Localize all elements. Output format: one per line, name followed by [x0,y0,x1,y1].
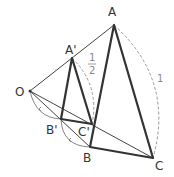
label-A1: A' [65,43,77,57]
label-A: A [108,5,117,19]
point-O [29,90,32,93]
ratio-one: 1 [157,73,163,84]
label-C1: C' [78,125,90,139]
homothety-diagram: O A A' B' C' B C 1 2 1 [0,0,174,177]
label-O: O [15,85,24,99]
triangle-ABC [90,25,153,158]
diagram-canvas: O A A' B' C' B C 1 2 1 [0,0,174,177]
tick-mark-2 [69,138,71,142]
ratio-half-numerator: 1 [89,52,95,63]
label-C: C [155,159,163,173]
label-B: B [83,151,91,165]
ratio-half-denominator: 2 [89,65,95,76]
label-B1: B' [46,123,58,137]
triangle-A1B1C1 [61,58,92,124]
